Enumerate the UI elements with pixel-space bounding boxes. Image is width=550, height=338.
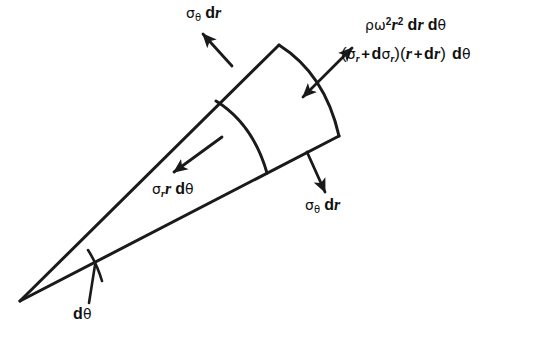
rho-symbol: ρ [365, 17, 374, 33]
wedge-outline [20, 45, 339, 301]
inner-arc [216, 101, 267, 173]
d-operator: d [73, 305, 83, 322]
sigma-theta-bottom-arrow [307, 152, 325, 192]
plus-operator-2: + [412, 45, 424, 62]
label-body-force: ρω2r2drdθ [365, 16, 446, 34]
dr-term: d [408, 16, 418, 33]
d-operator-2: d [424, 45, 434, 62]
sigma-symbol: σ [305, 197, 314, 213]
label-sigma-theta-dr-bottom: σθdr [305, 196, 340, 215]
label-radial-inner-force: σrrdθ [152, 180, 194, 199]
wedge-upper-edge [20, 45, 279, 301]
close-paren-2: ) [440, 44, 446, 63]
r-variable: r [215, 4, 221, 21]
dtheta-term: d [452, 45, 462, 62]
label-radial-outer-force: (σr+dσr)(r+dr)dθ [341, 44, 471, 64]
r-variable: r [334, 196, 340, 213]
sigma-symbol: σ [347, 46, 356, 62]
r-variable: r [165, 180, 171, 197]
theta-symbol: θ [83, 306, 92, 322]
sigma-symbol: σ [186, 5, 195, 21]
omega-symbol: ω [374, 17, 386, 33]
theta-symbol: θ [462, 46, 471, 62]
dtheta-term: d [175, 180, 185, 197]
wedge-lower-edge [20, 136, 339, 301]
dtheta-leader-line [89, 265, 95, 303]
label-sigma-theta-dr-top: σθdr [186, 4, 221, 23]
plus-operator: + [360, 45, 372, 62]
dr-term: d [205, 4, 215, 21]
theta-subscript: θ [314, 204, 320, 215]
label-dtheta-angle: dθ [73, 305, 92, 323]
d-operator: d [372, 45, 382, 62]
angle-annotation [88, 250, 102, 303]
dr-term: d [324, 196, 334, 213]
stress-element-figure: σθdr ρω2r2drdθ (σr+dσr)(r+dr)dθ σrrdθ σθ… [0, 0, 550, 338]
theta-symbol: θ [185, 181, 194, 197]
force-arrows [174, 34, 352, 192]
theta-symbol: θ [438, 17, 447, 33]
sigma-theta-top-arrow [203, 34, 232, 66]
r-exponent: 2 [398, 16, 404, 27]
r-variable: r [417, 16, 423, 33]
sigma-symbol: σ [152, 181, 161, 197]
theta-subscript: θ [195, 12, 201, 23]
dtheta-term: d [428, 16, 438, 33]
